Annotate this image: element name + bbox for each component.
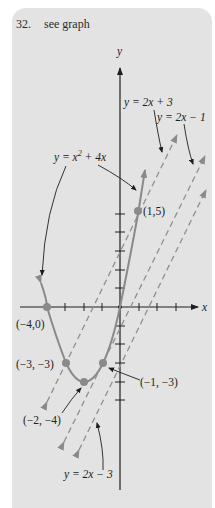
annotation-arrow-line3 [97,423,103,470]
line-2x-minus-1 [64,156,205,442]
point-m3-m3 [62,359,70,367]
label-parabola: y = x2 + 4x [53,149,107,164]
annotation-arrow-m2-m4 [62,388,81,413]
annotation-arrow-parabola-left [42,166,66,275]
point-m1-m3 [99,359,107,367]
label-line-2x-plus-3: y = 2x + 3 [123,96,173,109]
label-parabola-base: y = x [53,151,79,164]
label-point-1-5: (1,5) [143,205,165,218]
label-parabola-rest: + 4x [82,151,107,163]
graph-labels: y = 2x + 3 y = 2x − 1 y = x2 + 4x (1,5) … [16,96,206,481]
annotation-arrow-parabola-right [98,165,136,190]
label-point-m1-m3: (−1, −3) [140,376,178,389]
label-line-2x-minus-1: y = 2x − 1 [156,111,206,124]
label-point-m2-m4: (−2, −4) [23,414,61,427]
parabola-curve [41,170,145,382]
y-axis-label: y [116,45,123,58]
annotation-arrow-line2 [184,124,193,164]
point-m4-0 [43,303,51,311]
line-2x-minus-3 [79,190,206,450]
label-point-m4-0: (−4,0) [16,318,45,331]
annotation-arrows [42,110,193,470]
x-axis-label: x [201,301,208,313]
point-1-5 [134,207,142,215]
label-line-2x-minus-3: y = 2x − 3 [63,468,113,481]
point-m2-m4 [80,378,88,386]
key-points [43,207,142,386]
annotation-arrow-m1-m3 [109,368,140,380]
label-point-m3-m3: (−3, −3) [16,358,54,371]
